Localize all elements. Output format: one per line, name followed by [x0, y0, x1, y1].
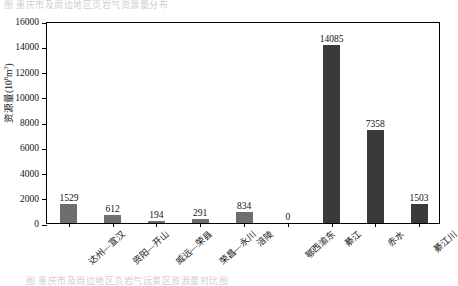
- x-axis-tick: [200, 223, 201, 227]
- y-axis-tick-label: 12000: [15, 69, 39, 79]
- bar: [192, 219, 209, 223]
- x-axis-tick: [332, 223, 333, 227]
- bar: [148, 221, 165, 223]
- y-axis-tick: [42, 199, 47, 200]
- bar: [60, 204, 77, 223]
- x-axis-category-label: 綦江川: [432, 229, 458, 254]
- y-axis-unit-close: ): [4, 63, 14, 66]
- y-axis-tick: [42, 225, 47, 226]
- top-cutoff-caption: 图 重庆市及周边地区页岩气资源量分布: [0, 0, 458, 11]
- y-axis-tick: [42, 124, 47, 125]
- y-axis-title: 资源量(108m3): [1, 63, 15, 123]
- figure-container: 图 重庆市及周边地区页岩气资源量分布 资源量(108m3) 0200040006…: [0, 0, 458, 286]
- y-axis-tick-label: 14000: [15, 44, 39, 54]
- y-axis-title-text: 资源量: [4, 93, 14, 123]
- bar: [236, 212, 253, 223]
- x-axis-tick: [375, 223, 376, 227]
- x-axis-category-label: 赤水: [386, 229, 406, 248]
- y-axis-unit-suffix: m: [4, 70, 14, 77]
- x-axis-tick: [288, 223, 289, 227]
- x-axis-tick: [69, 223, 70, 227]
- y-axis-tick: [42, 174, 47, 175]
- x-axis-tick: [156, 223, 157, 227]
- x-axis-tick: [113, 223, 114, 227]
- y-axis-tick: [42, 73, 47, 74]
- y-axis-unit-exponent2: 3: [2, 66, 9, 69]
- y-axis-tick: [42, 98, 47, 99]
- x-axis-tick: [419, 223, 420, 227]
- x-axis-category-label: 威远—荣县: [174, 229, 214, 267]
- bar: [367, 130, 384, 223]
- y-axis-tick-label: 10000: [15, 94, 39, 104]
- y-axis-tick-label: 2000: [20, 195, 39, 205]
- x-axis-category-label: 荣昌—永川: [218, 229, 258, 267]
- y-axis-unit-exponent: 8: [2, 77, 9, 80]
- bar-value-label: 14085: [320, 34, 344, 44]
- y-axis-unit-prefix: (10: [4, 80, 14, 93]
- bar-value-label: 291: [193, 208, 207, 218]
- bar-value-label: 612: [106, 204, 120, 214]
- x-axis-category-label: 鄂西渝东: [303, 229, 336, 261]
- x-axis-category-label: 綦江: [342, 229, 362, 248]
- y-axis-tick-label: 6000: [20, 145, 39, 155]
- y-axis-tick-label: 4000: [20, 170, 39, 180]
- y-axis-tick: [42, 149, 47, 150]
- bar: [411, 204, 428, 223]
- x-axis-category-label: 资阳—开山: [130, 229, 170, 267]
- y-axis-tick-label: 8000: [20, 119, 39, 129]
- y-axis-tick: [42, 23, 47, 24]
- bar-value-label: 0: [285, 212, 290, 222]
- bar-value-label: 1529: [59, 193, 78, 203]
- y-axis-tick-label: 0: [34, 220, 39, 230]
- bar-value-label: 1503: [410, 193, 429, 203]
- x-axis-tick: [244, 223, 245, 227]
- bar: [323, 45, 340, 223]
- bar: [104, 215, 121, 223]
- x-axis-category-label: 达州—宣汉: [86, 229, 126, 267]
- bar-value-label: 834: [237, 201, 251, 211]
- bar-value-label: 194: [149, 210, 163, 220]
- plot-area: 0200040006000800010000120001400016000152…: [46, 22, 440, 224]
- y-axis-tick-label: 16000: [15, 18, 39, 28]
- bottom-cutoff-caption: 图 重庆市及周边地区页岩气远景区资源量对比图: [0, 274, 458, 286]
- x-axis-category-label: 涪陵: [255, 229, 275, 248]
- bar-value-label: 7358: [366, 119, 385, 129]
- y-axis-tick: [42, 48, 47, 49]
